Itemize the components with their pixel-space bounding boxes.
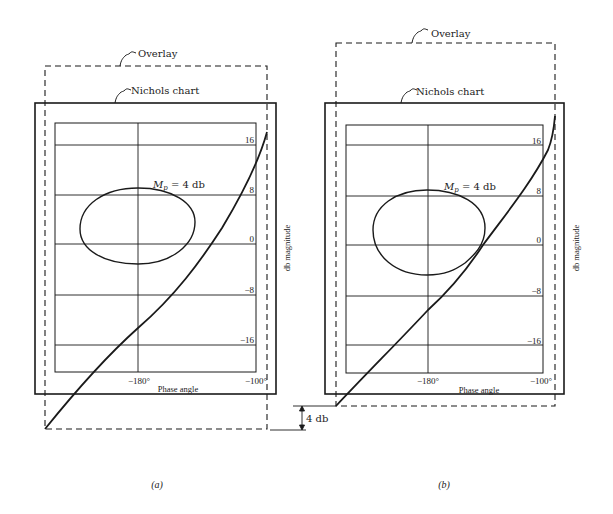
grid-frame [346, 125, 543, 373]
x-tick-neg180: −180° [128, 376, 151, 386]
caption-b: (b) [438, 479, 450, 491]
grid-frame [55, 123, 256, 372]
y-tick-neg16: −16 [527, 336, 542, 346]
y-tick-8: 8 [250, 185, 255, 195]
x-tick-neg100: −100° [530, 376, 553, 386]
nichols-callout-squiggle [401, 89, 417, 103]
nichols-label: Nichols chart [416, 86, 484, 97]
nichols-label: Nichols chart [131, 85, 199, 96]
mp-contour [373, 190, 485, 275]
y-tick-16: 16 [245, 135, 255, 145]
overlay-callout-squiggle [120, 52, 136, 66]
nichols-chart-frame [325, 103, 564, 394]
mp-contour [80, 188, 195, 264]
y-tick-16: 16 [532, 136, 542, 146]
overlay-callout-squiggle [412, 29, 428, 43]
y-tick-0: 0 [537, 235, 542, 245]
overlay-frame [336, 43, 555, 406]
panel-a: 16 8 0 −8 −16 −180° −100° Phase angle db… [35, 48, 292, 491]
frequency-response-curve [45, 132, 267, 429]
figure-canvas: 16 8 0 −8 −16 −180° −100° Phase angle db… [0, 0, 613, 514]
y-axis-label: db magnitude [571, 225, 581, 272]
y-tick-8: 8 [537, 186, 542, 196]
x-tick-neg100: −100° [245, 376, 268, 386]
y-tick-0: 0 [250, 234, 255, 244]
x-tick-neg180: −180° [417, 376, 440, 386]
y-tick-neg8: −8 [531, 286, 541, 296]
y-tick-neg16: −16 [240, 335, 255, 345]
frequency-response-curve [336, 116, 555, 406]
y-axis-label: db magnitude [282, 225, 292, 272]
overlay-frame [45, 66, 267, 429]
overlay-label: Overlay [431, 28, 471, 39]
nichols-chart-frame [35, 103, 276, 394]
y-tick-neg8: −8 [244, 285, 254, 295]
caption-a: (a) [151, 479, 163, 491]
x-axis-label: Phase angle [459, 385, 500, 395]
nichols-callout-squiggle [115, 89, 131, 103]
panel-b: 16 8 0 −8 −16 −180° −100° Phase angle db… [325, 28, 581, 491]
x-axis-label: Phase angle [158, 384, 199, 394]
shift-label: 4 db [306, 413, 328, 424]
overlay-label: Overlay [138, 48, 178, 59]
